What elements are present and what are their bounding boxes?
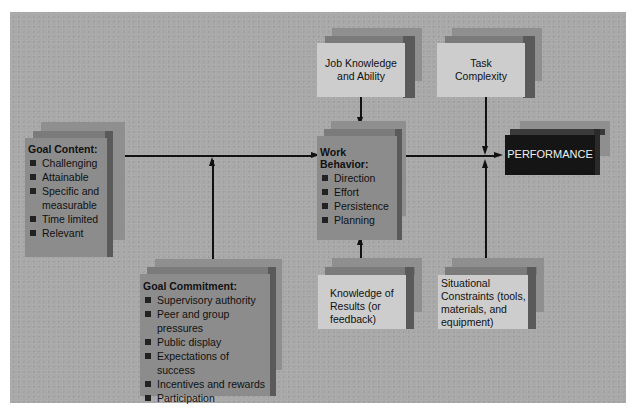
task-complexity-line2: Complexity: [437, 70, 525, 83]
goal-content-title: Goal Content:: [28, 143, 104, 155]
list-item: Relevant: [28, 226, 104, 240]
arrow-up-icon: [209, 157, 215, 166]
knowledge-results-line2: Results (or: [330, 300, 406, 313]
list-item: Time limited: [28, 212, 104, 226]
list-item: Planning: [320, 213, 394, 227]
connector-job-knowledge-down: [360, 97, 362, 119]
performance-label: PERFORMANCE: [507, 148, 593, 160]
situational-line2: Constraints (tools,: [441, 290, 528, 303]
work-behavior-list: Direction Effort Persistence Planning: [320, 171, 394, 227]
list-item: Persistence: [320, 199, 394, 213]
list-item: Challenging: [28, 156, 104, 170]
connector-situational-up: [485, 164, 487, 272]
arrow-down-icon: [482, 146, 488, 155]
situational-line1: Situational: [441, 277, 528, 290]
situational-line4: equipment): [441, 316, 528, 329]
job-knowledge-line1: Job Knowledge: [317, 57, 405, 70]
connector-goal-commitment-up: [212, 160, 214, 269]
connector-work-behavior-to-performance: [405, 155, 495, 157]
list-item: Incentives and rewards: [143, 377, 267, 391]
arrow-up-icon: [482, 159, 488, 168]
situational-line3: materials, and: [441, 303, 528, 316]
work-behavior-title: Work Behavior:: [320, 146, 394, 170]
goal-commitment-title: Goal Commitment:: [143, 280, 267, 292]
list-item: Participation: [143, 391, 267, 405]
job-knowledge-line2: and Ability: [317, 70, 405, 83]
list-item: Direction: [320, 171, 394, 185]
task-complexity-line1: Task: [437, 57, 525, 70]
list-item: Attainable: [28, 170, 104, 184]
list-item: Public display: [143, 335, 267, 349]
list-item: Peer and group pressures: [143, 307, 267, 335]
list-item: Supervisory authority: [143, 293, 267, 307]
connector-task-complexity-down: [485, 97, 487, 149]
knowledge-results-line1: Knowledge of: [330, 287, 406, 300]
goal-content-list: Challenging Attainable Specific and meas…: [28, 156, 104, 240]
arrow-right-icon: [494, 152, 503, 158]
list-item: Effort: [320, 185, 394, 199]
goal-commitment-list: Supervisory authority Peer and group pre…: [143, 293, 267, 405]
list-item: Expectations of success: [143, 349, 267, 377]
list-item: Specific and measurable: [28, 184, 104, 212]
knowledge-results-line3: feedback): [330, 313, 406, 326]
